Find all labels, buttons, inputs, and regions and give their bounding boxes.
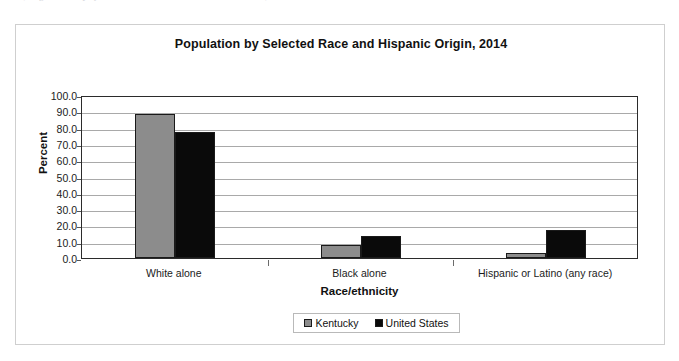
y-axis-tick-label: 80.0 [33,123,77,135]
y-axis-tick [77,195,81,196]
y-axis-tick [77,113,81,114]
bar-kentucky-black-alone [321,245,361,258]
legend-item-united-states: United States [375,317,449,329]
legend-label-united-states: United States [386,317,449,329]
y-axis-tick [77,211,81,212]
screenshot-root: (Image: Kentucky QuickFacts — U.S. Censu… [0,0,679,361]
y-axis-tick [77,146,81,147]
y-axis-tick [77,97,81,98]
y-axis-tick-label: 30.0 [33,204,77,216]
clipped-header-text: (Image: Kentucky QuickFacts — U.S. Censu… [22,0,268,1]
bar-united-states-hispanic-or-latino-any-race [546,230,586,258]
y-axis-tick-label: 70.0 [33,139,77,151]
y-axis-tick-label: 60.0 [33,155,77,167]
x-axis-category-label: Hispanic or Latino (any race) [452,267,638,279]
y-axis-tick-label: 90.0 [33,106,77,118]
x-axis-category-label: White alone [81,267,267,279]
y-axis-tick [77,162,81,163]
chart-title: Population by Selected Race and Hispanic… [16,37,666,51]
bar-united-states-black-alone [361,236,401,258]
clipped-header-strip: (Image: Kentucky QuickFacts — U.S. Censu… [0,0,679,9]
legend-item-kentucky: Kentucky [304,317,358,329]
y-axis-tick [77,260,81,261]
y-axis-tick [77,179,81,180]
bar-kentucky-hispanic-or-latino-any-race [506,253,546,258]
plot-area [81,96,638,259]
bar-united-states-white-alone [175,132,215,258]
chart-legend: Kentucky United States [293,313,460,333]
x-axis-title: Race/ethnicity [81,285,638,297]
y-axis-tick-labels: 0.010.020.030.040.050.060.070.080.090.01… [29,96,77,259]
x-axis-category-label: Black alone [267,267,453,279]
y-axis-tick [77,130,81,131]
legend-label-kentucky: Kentucky [315,317,358,329]
legend-swatch-icon-kentucky [304,319,312,327]
y-axis-tick-label: 10.0 [33,237,77,249]
legend-swatch-icon-united-states [375,319,383,327]
chart-frame: Population by Selected Race and Hispanic… [15,24,665,345]
y-axis-tick-label: 50.0 [33,172,77,184]
y-axis-tick [77,227,81,228]
bar-kentucky-white-alone [135,114,175,258]
x-axis-category-separator [268,260,269,266]
y-axis-tick-label: 40.0 [33,188,77,200]
y-axis-tick-label: 20.0 [33,220,77,232]
x-axis-category-separator [453,260,454,266]
y-axis-tick-label: 100.0 [33,90,77,102]
y-axis-tick [77,244,81,245]
y-axis-tick-label: 0.0 [33,253,77,265]
